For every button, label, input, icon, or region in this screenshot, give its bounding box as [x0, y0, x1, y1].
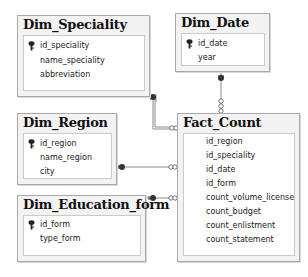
table-dim-speciality[interactable]: Dim_Speciality id_speciality name_specia…	[17, 15, 150, 97]
column-list: id_speciality name_speciality abbreviati…	[23, 35, 145, 91]
column-name: id_date	[206, 163, 235, 177]
relationship-region-fact[interactable]	[117, 164, 177, 170]
table-title: Dim_Education_form	[23, 197, 169, 212]
column-name: type_form	[40, 232, 81, 246]
column-name: count_statement	[206, 233, 274, 247]
primary-key-icon	[186, 39, 193, 49]
column-name: city	[40, 165, 55, 179]
many-end-icon	[219, 99, 223, 103]
column-name: name_speciality	[40, 54, 105, 68]
primary-key-icon	[28, 41, 35, 51]
column-name: count_enlistment	[206, 219, 275, 233]
table-title: Dim_Date	[181, 15, 249, 30]
column-name: abbreviation	[40, 68, 90, 82]
column-name: name_region	[40, 151, 92, 165]
column-name: count_volume_license	[206, 191, 294, 205]
column-list: id_form type_form	[23, 215, 141, 256]
column-name: id_form	[40, 218, 70, 232]
table-fact-count[interactable]: Fact_Count id_region id_speciality id_da…	[177, 113, 300, 262]
column-name: id_speciality	[206, 149, 255, 163]
table-title: Fact_Count	[183, 115, 261, 130]
column-name: id_speciality	[40, 39, 89, 53]
column-list: id_region id_speciality id_date id_form …	[183, 133, 295, 256]
primary-key-icon	[28, 139, 35, 149]
column-name: count_budget	[206, 205, 261, 219]
primary-key-icon	[28, 220, 35, 230]
column-name: year	[198, 51, 216, 65]
table-title: Dim_Speciality	[23, 17, 127, 32]
one-end-icon	[150, 94, 156, 100]
table-dim-date[interactable]: Dim_Date id_date year	[175, 13, 270, 72]
table-title: Dim_Region	[23, 115, 108, 130]
column-name: id_date	[198, 37, 227, 51]
column-list: id_region name_region city	[23, 133, 112, 179]
relationship-date-fact[interactable]	[218, 72, 224, 113]
table-dim-education-form[interactable]: Dim_Education_form id_form type_form	[17, 195, 146, 262]
column-name: id_form	[206, 177, 236, 191]
one-end-icon	[119, 164, 125, 170]
column-name: id_region	[40, 137, 77, 151]
table-dim-region[interactable]: Dim_Region id_region name_region city	[17, 113, 117, 185]
relationship-speciality-fact[interactable]	[150, 94, 178, 130]
column-list: id_date year	[181, 33, 265, 66]
column-name: id_region	[206, 135, 243, 149]
